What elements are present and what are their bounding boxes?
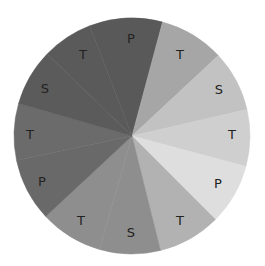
slice-label: P [38,174,46,189]
slice-label: T [78,47,87,62]
slice-label: P [127,31,135,46]
slice-label: T [227,127,236,142]
slice-label: T [25,127,34,142]
slice-label: S [127,225,135,240]
slice-label: T [76,213,85,228]
pie-slices [14,18,250,254]
slice-label: S [41,81,49,96]
slice-label: S [215,82,223,97]
slice-label: T [175,47,184,62]
pie-chart: PTSTPTSTPTST [0,0,265,266]
slice-label: T [175,213,184,228]
slice-label: P [214,176,222,191]
